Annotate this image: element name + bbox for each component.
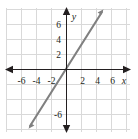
- y-tick-label-pos6: 6: [56, 20, 61, 30]
- x-tick-label-neg2: -2: [48, 76, 56, 86]
- y-tick-label-neg6: -6: [54, 110, 62, 120]
- x-tick-label-pos4: 4: [95, 76, 100, 86]
- x-tick-label-neg6: -6: [18, 76, 26, 86]
- x-tick-label-pos6: 6: [110, 76, 115, 86]
- y-axis-name-label: y: [71, 11, 77, 22]
- coordinate-graph-figure: -6 -4 -2 2 4 6 6 4 2 -6 x y: [0, 0, 138, 139]
- x-axis-name-label: x: [121, 75, 127, 86]
- coordinate-plane-svg: -6 -4 -2 2 4 6 6 4 2 -6 x y: [0, 0, 138, 139]
- x-tick-label-neg4: -4: [33, 76, 41, 86]
- x-tick-label-pos2: 2: [80, 76, 85, 86]
- y-tick-label-pos4: 4: [56, 35, 61, 45]
- y-tick-label-pos2: 2: [56, 50, 61, 60]
